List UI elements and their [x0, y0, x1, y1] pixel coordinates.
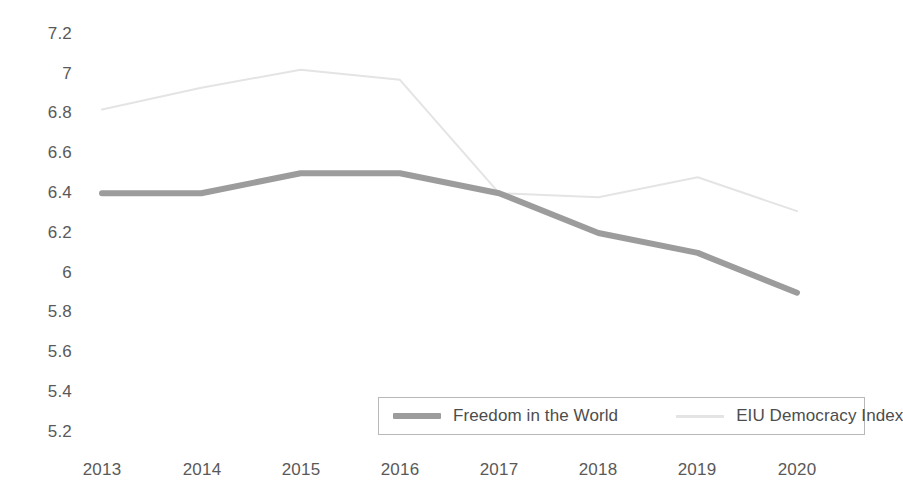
x-tick-label: 2015	[282, 460, 321, 480]
x-axis: 2013 2014 2015 2016 2017 2018 2019 2020	[0, 452, 901, 492]
legend-line-swatch-icon	[393, 413, 441, 419]
x-tick-label: 2018	[579, 460, 618, 480]
legend-label: EIU Democracy Index	[736, 406, 903, 426]
x-tick-label: 2013	[83, 460, 122, 480]
legend-entry-eiu-democracy-index[interactable]: EIU Democracy Index	[676, 406, 903, 426]
legend-line-swatch-icon	[676, 415, 724, 418]
x-tick-label: 2016	[381, 460, 420, 480]
x-tick-label: 2017	[480, 460, 519, 480]
chart-legend: Freedom in the World EIU Democracy Index	[378, 397, 865, 435]
x-tick-label: 2019	[678, 460, 717, 480]
x-tick-label: 2014	[183, 460, 222, 480]
series-line-freedom-in-the-world	[102, 173, 797, 292]
legend-label: Freedom in the World	[453, 406, 618, 426]
x-tick-label: 2020	[778, 460, 817, 480]
legend-entry-freedom-in-the-world[interactable]: Freedom in the World	[393, 406, 618, 426]
